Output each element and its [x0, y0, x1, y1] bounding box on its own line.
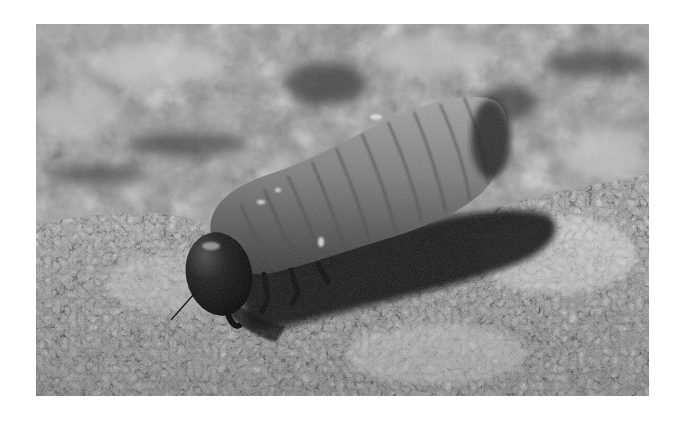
larva-photo [36, 24, 649, 396]
photo-canvas [36, 24, 649, 396]
film-grain [36, 24, 649, 396]
